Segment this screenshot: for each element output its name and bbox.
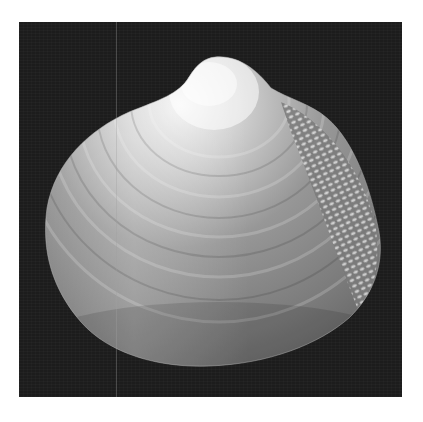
shell-illustration (19, 22, 402, 397)
shell-photo (19, 22, 402, 397)
scan-line-artifact (116, 22, 117, 397)
